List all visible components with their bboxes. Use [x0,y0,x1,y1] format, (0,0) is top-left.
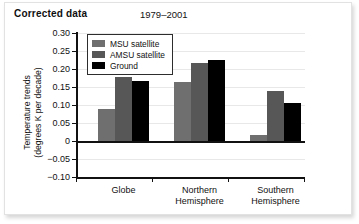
bar [115,77,132,141]
figure-root: Corrected data 1979–2001 Temperature tre… [0,0,359,224]
y-tick-label: 0.20 [52,64,70,74]
legend-item: MSU satellite [92,38,165,49]
zero-axis-line [76,141,305,143]
gridline [76,159,305,160]
x-tick-mark [228,177,229,182]
legend-label-amsu: AMSU satellite [110,50,165,60]
x-axis-label: Southern Hemisphere [251,185,300,207]
bar [208,60,225,141]
x-axis-line [76,177,305,179]
x-tick-mark [152,177,153,182]
legend-item: Ground [92,60,165,71]
y-tick-label: −0.10 [47,172,70,182]
y-tick-label: −0.05 [47,154,70,164]
bar [267,91,284,141]
x-axis-label: Globe [111,185,135,196]
y-tick-label: 0.10 [52,100,70,110]
y-tick-label: 0.15 [52,82,70,92]
x-axis-label: Northern Hemisphere [175,185,224,207]
legend-swatch-amsu-icon [92,51,105,58]
legend-label-msu: MSU satellite [110,39,159,49]
y-tick-label: 0 [65,136,70,146]
legend-label-ground: Ground [110,61,138,71]
y-axis-label: Temperature trends (degrees K per decade… [22,38,43,188]
legend-swatch-msu-icon [92,40,105,47]
bar [98,109,115,141]
bar [191,63,208,141]
bar [174,82,191,141]
y-tick-label: 0.25 [52,46,70,56]
legend: MSU satellite AMSU satellite Ground [87,34,173,75]
bar [250,135,267,141]
figure-content: Corrected data 1979–2001 Temperature tre… [0,0,359,224]
y-tick-label: 0.05 [52,118,70,128]
x-tick-mark [76,177,77,182]
corrected-data-label: Corrected data [14,8,87,19]
y-tick-label: 0.30 [52,28,70,38]
bar [284,103,301,141]
legend-swatch-ground-icon [92,62,105,69]
bar [132,81,149,141]
chart-title: 1979–2001 [140,9,188,20]
legend-item: AMSU satellite [92,49,165,60]
x-tick-mark [304,177,305,182]
